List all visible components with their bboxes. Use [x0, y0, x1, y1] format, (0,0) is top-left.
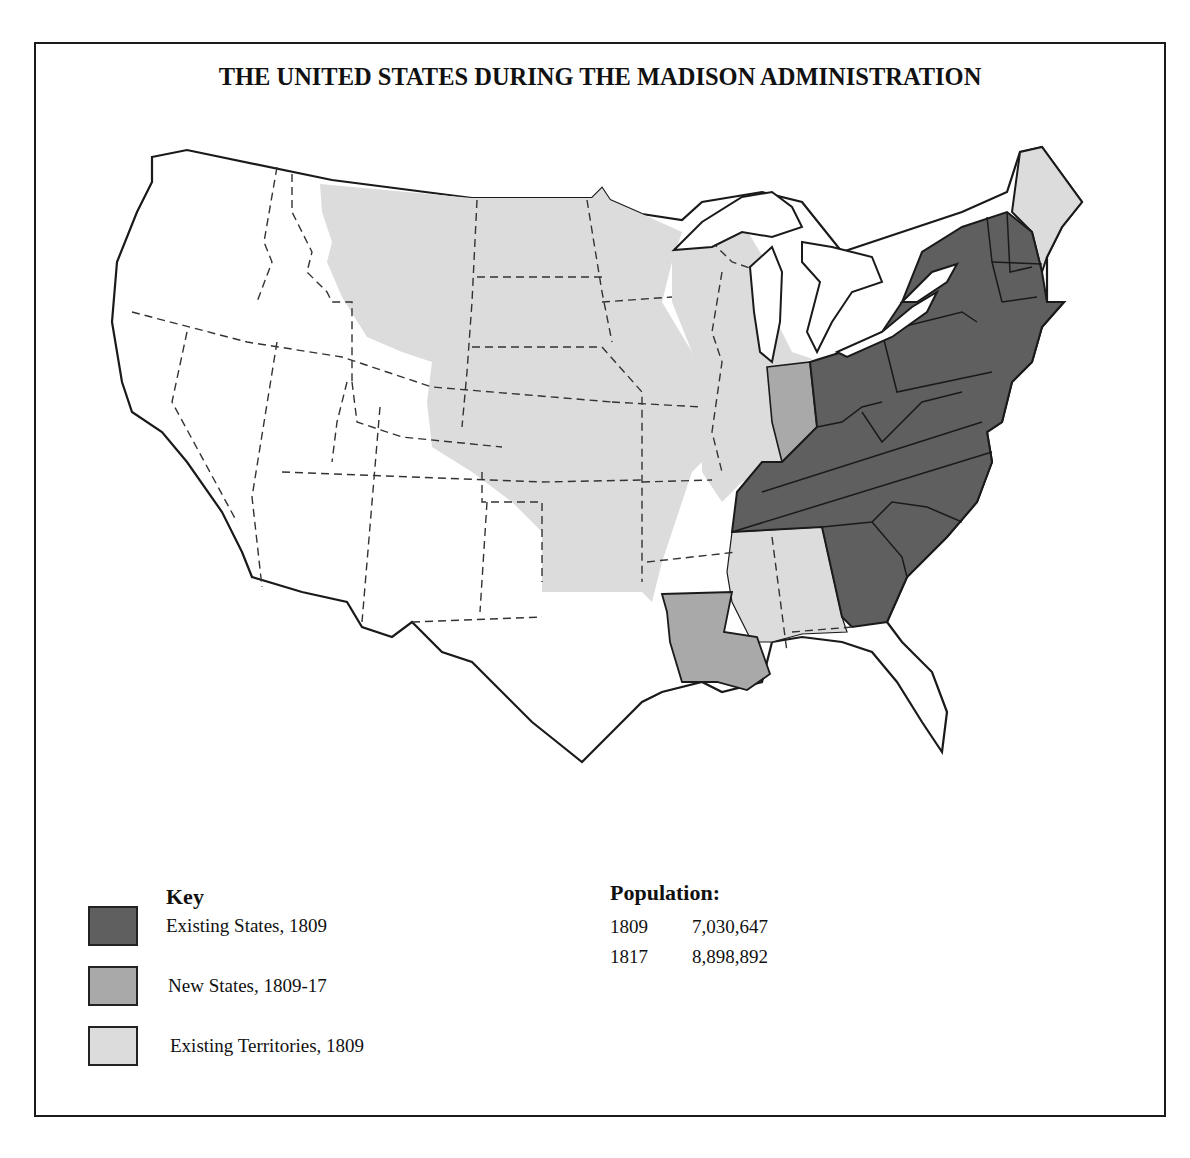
swatch-existing-states — [88, 906, 138, 946]
key-item-new-states: New States, 1809-17 — [88, 966, 327, 1006]
population-row: 1809 7,030,647 — [610, 916, 768, 938]
population-title: Population: — [610, 880, 720, 906]
key-label: New States, 1809-17 — [168, 975, 327, 997]
us-map — [36, 44, 1168, 1119]
population-year: 1809 — [610, 916, 692, 938]
swatch-existing-territories — [88, 1026, 138, 1066]
key-item-existing-states: Existing States, 1809 — [88, 906, 327, 946]
key-item-existing-territories: Existing Territories, 1809 — [88, 1026, 364, 1066]
population-year: 1817 — [610, 946, 692, 968]
map-frame: THE UNITED STATES DURING THE MADISON ADM… — [34, 42, 1166, 1117]
population-row: 1817 8,898,892 — [610, 946, 768, 968]
swatch-new-states — [88, 966, 138, 1006]
key-label: Existing States, 1809 — [166, 915, 327, 937]
population-value: 8,898,892 — [692, 946, 768, 968]
population-value: 7,030,647 — [692, 916, 768, 938]
key-label: Existing Territories, 1809 — [170, 1035, 364, 1057]
